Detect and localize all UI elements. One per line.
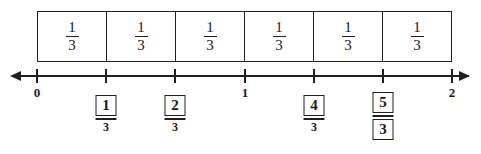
tick-mark-two-thirds: [174, 69, 176, 83]
fraction-denominator: 3: [274, 38, 284, 53]
tape-cell: 1 3: [383, 12, 451, 61]
fraction-denominator: 3: [136, 38, 146, 53]
tape-cell: 1 3: [107, 12, 176, 61]
callout-denominator: 3: [172, 121, 178, 133]
tick-mark-four-thirds: [313, 69, 315, 83]
callout-numerator-box: 5: [373, 92, 394, 113]
fraction-denominator: 3: [412, 38, 422, 53]
fraction-one-third: 1 3: [342, 20, 355, 54]
fraction-numerator: 1: [67, 20, 77, 35]
axis-label-2: 2: [449, 86, 456, 99]
tape-cell: 1 3: [38, 12, 107, 61]
fraction-denominator: 3: [343, 38, 353, 53]
fraction-numerator: 1: [136, 20, 146, 35]
fraction-numerator: 1: [412, 20, 422, 35]
arrow-left-icon: [10, 71, 21, 81]
fraction-one-third: 1 3: [273, 20, 286, 54]
fraction-callout-one-third: 1 3: [96, 95, 117, 133]
fraction-one-third: 1 3: [66, 20, 79, 54]
callout-denominator: 3: [311, 121, 317, 133]
fraction-denominator: 3: [205, 38, 215, 53]
callout-denominator-box: 3: [373, 119, 394, 140]
fraction-one-third: 1 3: [204, 20, 217, 54]
axis-label-1: 1: [242, 86, 249, 99]
fraction-numerator: 1: [343, 20, 353, 35]
callout-numerator-box: 4: [304, 95, 325, 116]
tick-mark-2: [451, 69, 453, 83]
fraction-tape-bar: 1 3 1 3 1 3 1 3: [37, 11, 452, 62]
fraction-one-third: 1 3: [135, 20, 148, 54]
fraction-denominator: 3: [67, 38, 77, 53]
fraction-numerator: 1: [274, 20, 284, 35]
fraction-callout-two-thirds: 2 3: [165, 95, 186, 133]
tape-cell: 1 3: [176, 12, 245, 61]
tick-mark-1: [244, 69, 246, 83]
callout-denominator: 3: [103, 121, 109, 133]
axis-label-0: 0: [34, 86, 41, 99]
fraction-one-third: 1 3: [411, 20, 424, 54]
tick-mark-one-third: [105, 69, 107, 83]
tape-cell: 1 3: [314, 12, 383, 61]
fraction-callout-five-thirds: 5 3: [373, 92, 394, 140]
tick-mark-five-thirds: [382, 69, 384, 83]
callout-numerator-box: 1: [96, 95, 117, 116]
callout-fraction-bar-icon: [373, 115, 394, 117]
fraction-callout-four-thirds: 4 3: [304, 95, 325, 133]
arrow-right-icon: [459, 71, 470, 81]
tape-cell: 1 3: [245, 12, 314, 61]
callout-numerator-box: 2: [165, 95, 186, 116]
fraction-numerator: 1: [205, 20, 215, 35]
tick-mark-0: [36, 69, 38, 83]
fraction-number-line-figure: 1 3 1 3 1 3 1 3: [0, 0, 481, 154]
axis-line: [14, 75, 469, 77]
